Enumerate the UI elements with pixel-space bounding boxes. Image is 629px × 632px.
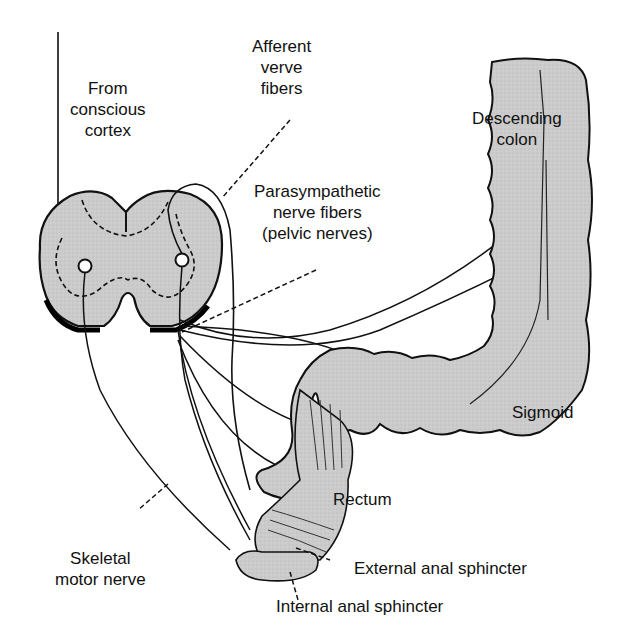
- external-anal-sphincter: [236, 551, 318, 581]
- label-parasympathetic: Parasympathetic nerve fibers (pelvic ner…: [254, 181, 381, 244]
- spinal-cord-cross-section: [40, 191, 222, 330]
- label-internal-anal-sphincter: Internal anal sphincter: [276, 596, 443, 617]
- left-motor-neuron: [79, 260, 92, 273]
- label-skeletal-motor-nerve: Skeletal motor nerve: [55, 548, 146, 590]
- label-descending-colon: Descending colon: [472, 108, 562, 150]
- right-motor-neuron: [176, 254, 189, 267]
- label-external-anal-sphincter: External anal sphincter: [354, 558, 527, 579]
- label-afferent-fibers: Afferent verve fibers: [252, 36, 311, 99]
- label-rectum: Rectum: [333, 489, 392, 510]
- label-from-cortex: From conscious cortex: [70, 78, 146, 141]
- label-sigmoid: Sigmoid: [512, 402, 573, 423]
